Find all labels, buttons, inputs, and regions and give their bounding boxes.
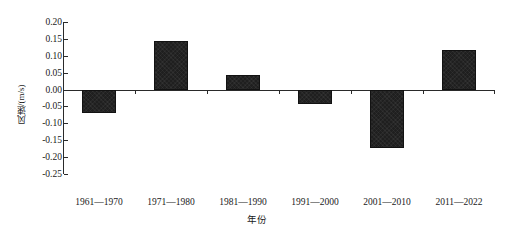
bar bbox=[226, 75, 260, 89]
y-tick-label: -0.10 bbox=[26, 118, 62, 128]
x-axis-tick-mark bbox=[63, 90, 64, 94]
bar bbox=[442, 50, 476, 90]
y-tick-label: 0.10 bbox=[26, 51, 62, 61]
x-tick-label: 1961—1970 bbox=[63, 196, 135, 208]
y-tick-label: -0.25 bbox=[26, 169, 62, 179]
x-tick-label: 1991—2000 bbox=[279, 196, 351, 208]
x-tick-label: 1981—1990 bbox=[207, 196, 279, 208]
bar bbox=[370, 90, 404, 148]
y-tick-label: -0.05 bbox=[26, 101, 62, 111]
x-axis-tick-mark bbox=[135, 90, 136, 94]
y-axis-spine-cap bbox=[64, 22, 68, 23]
y-tick-label: 0.05 bbox=[26, 68, 62, 78]
y-tick-label: -0.15 bbox=[26, 135, 62, 145]
y-axis-tick-mark bbox=[64, 157, 68, 158]
x-axis-tick-mark bbox=[423, 90, 424, 94]
y-tick-label: -0.20 bbox=[26, 152, 62, 162]
bar bbox=[154, 41, 188, 90]
x-axis-tick-mark bbox=[279, 90, 280, 94]
y-axis-tick-labels: 0.200.150.100.050.00-0.05-0.10-0.15-0.20… bbox=[26, 0, 62, 236]
y-axis-tick-mark bbox=[64, 39, 68, 40]
y-axis-tick-mark bbox=[64, 56, 68, 57]
y-tick-label: 0.20 bbox=[26, 17, 62, 27]
x-tick-label: 1971—1980 bbox=[135, 196, 207, 208]
y-axis-spine-cap bbox=[64, 174, 68, 175]
x-axis-label: 年份 bbox=[0, 214, 514, 226]
y-axis-line bbox=[63, 22, 64, 174]
x-tick-label: 2011—2022 bbox=[423, 196, 495, 208]
bar bbox=[82, 90, 116, 113]
x-axis-tick-labels: 1961—19701971—19801981—19901991—20002001… bbox=[63, 196, 495, 210]
y-tick-label: 0.15 bbox=[26, 34, 62, 44]
x-axis-tick-mark bbox=[207, 90, 208, 94]
y-tick-label: 0.00 bbox=[26, 85, 62, 95]
x-tick-label: 2001—2010 bbox=[351, 196, 423, 208]
y-axis-tick-mark bbox=[64, 90, 68, 91]
y-axis-tick-mark bbox=[64, 106, 68, 107]
y-axis-tick-mark bbox=[64, 123, 68, 124]
x-axis-tick-mark bbox=[351, 90, 352, 94]
y-axis-tick-mark bbox=[64, 140, 68, 141]
plot-area bbox=[63, 22, 495, 174]
y-axis-tick-mark bbox=[64, 73, 68, 74]
bar bbox=[298, 90, 332, 104]
chart-figure: 风速/(m/s) 0.200.150.100.050.00-0.05-0.10-… bbox=[0, 0, 514, 236]
x-axis-tick-mark bbox=[494, 90, 495, 94]
